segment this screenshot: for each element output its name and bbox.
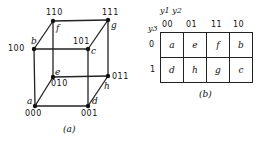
kmap-row-1: d h g c — [161, 58, 253, 83]
vertex-f-label: f — [56, 24, 59, 33]
vertex-d-label: d — [92, 97, 98, 106]
vertex-f-code: 110 — [46, 9, 63, 17]
vertex-f-dot — [51, 19, 55, 23]
kmap-cell: c — [230, 58, 253, 83]
kmap-row-0: a e f b — [161, 33, 253, 58]
kmap-grid: a e f b d h g c — [160, 32, 253, 83]
vertex-c-code: 101 — [73, 38, 90, 46]
kmap-cell: a — [161, 33, 184, 58]
col-header-11: 11 — [211, 21, 222, 29]
kmap-cell: g — [207, 58, 230, 83]
vertex-b-code: 100 — [8, 45, 25, 53]
vertex-c-dot — [86, 47, 90, 51]
kmap-cell: b — [230, 33, 253, 58]
vertex-a-label: a — [27, 97, 32, 106]
kmap-cell: f — [207, 33, 230, 58]
vertex-h-code: 011 — [112, 73, 129, 81]
vertex-d-code: 001 — [81, 110, 98, 118]
vertex-h-dot — [106, 74, 110, 78]
row-header-1: 1 — [150, 66, 156, 74]
vertex-a-code: 000 — [25, 110, 42, 118]
row-variable-label: y3 — [148, 25, 158, 33]
col-header-10: 10 — [233, 21, 244, 29]
vertex-e-code: 010 — [51, 80, 68, 88]
vertex-b-dot — [32, 47, 36, 51]
kmap-cell: e — [184, 33, 207, 58]
col-variable-label: y1 y2 — [160, 7, 182, 15]
vertex-d-dot — [86, 104, 90, 108]
vertex-g-code: 111 — [102, 9, 119, 17]
kmap-cell: h — [184, 58, 207, 83]
vertex-h-label: h — [104, 82, 110, 91]
row-header-0: 0 — [149, 41, 155, 49]
vertex-g-dot — [106, 18, 110, 22]
vertex-g-label: g — [111, 21, 117, 30]
figure-b-caption: (b) — [199, 90, 212, 99]
col-header-00: 00 — [162, 21, 173, 29]
vertex-e-label: e — [55, 68, 60, 77]
col-header-01: 01 — [186, 21, 197, 29]
vertex-c-label: c — [91, 47, 96, 56]
vertex-b-label: b — [31, 37, 37, 46]
figure-a-caption: (a) — [63, 125, 75, 134]
vertex-a-dot — [33, 104, 37, 108]
kmap-cell: d — [161, 58, 184, 83]
